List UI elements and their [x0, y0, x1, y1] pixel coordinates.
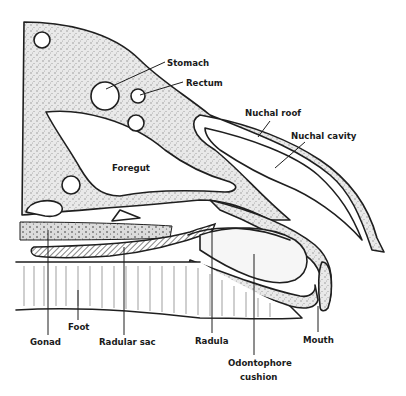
small-circle-mid [128, 115, 144, 131]
label-odontophore-line1: Odontophore [228, 358, 292, 368]
label-nuchal-roof: Nuchal roof [245, 108, 301, 118]
rectum-circle [131, 89, 145, 103]
label-odontophore-line2: cushion [240, 372, 277, 382]
label-nuchal-cavity: Nuchal cavity [291, 131, 357, 141]
label-foregut: Foregut [112, 163, 150, 173]
gonad-band [20, 222, 172, 240]
label-mouth: Mouth [303, 335, 334, 345]
label-rectum: Rectum [186, 78, 223, 88]
small-circle-top [34, 32, 50, 48]
anatomy-diagram: Stomach Rectum Nuchal roof Nuchal cavity… [0, 0, 406, 396]
pocket-triangle [112, 210, 140, 221]
stomach-circle [91, 82, 119, 110]
label-foot: Foot [68, 322, 89, 332]
label-gonad: Gonad [30, 337, 61, 347]
label-radula: Radula [195, 336, 229, 346]
label-radular-sac: Radular sac [99, 337, 156, 347]
mouth-lip [319, 262, 332, 311]
label-stomach: Stomach [167, 58, 209, 68]
small-circle-left [62, 176, 80, 194]
